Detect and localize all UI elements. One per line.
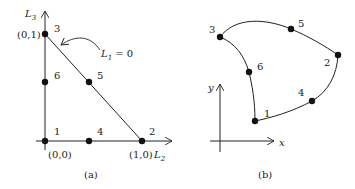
node-b-5-label: 5 (298, 18, 304, 29)
diagram-canvas: 1 2 3 4 5 6 (0,0) (1,0) (0,1) L3 L2 L1 =… (0, 0, 355, 189)
coord-origin: (0,0) (48, 149, 72, 160)
node-2 (139, 138, 145, 144)
annotation-arrow (61, 38, 100, 50)
node-6-label: 6 (54, 70, 60, 81)
node-b-2 (335, 52, 341, 58)
node-4 (86, 138, 92, 144)
axis-l3-label: L3 (24, 8, 37, 22)
coord-1-0: (1,0) (129, 149, 153, 160)
axis-l2-label: L2 (153, 149, 166, 163)
node-b-4 (309, 98, 315, 104)
node-b-4-label: 4 (298, 87, 304, 98)
axis-y-label: y (207, 82, 214, 93)
node-b-3-label: 3 (209, 24, 215, 35)
node-3 (42, 31, 48, 37)
caption-a: (a) (84, 169, 98, 180)
edge-1-6-3 (220, 37, 255, 121)
node-4-label: 4 (97, 126, 103, 137)
node-1-label: 1 (54, 126, 60, 137)
node-b-6-label: 6 (257, 61, 263, 72)
axis-x-label: x (279, 137, 285, 148)
node-b-5 (288, 26, 294, 32)
figure-a: 1 2 3 4 5 6 (0,0) (1,0) (0,1) L3 L2 L1 =… (17, 8, 172, 180)
node-5 (86, 79, 92, 85)
node-b-6 (246, 69, 252, 75)
node-b-3 (217, 34, 223, 40)
node-b-2-label: 2 (324, 57, 330, 68)
node-3-label: 3 (54, 23, 60, 34)
node-b-1 (252, 118, 258, 124)
coord-0-1: (0,1) (17, 29, 41, 40)
node-6 (42, 79, 48, 85)
node-b-1-label: 1 (264, 108, 270, 119)
node-5-label: 5 (97, 70, 103, 81)
figure-b: 1 2 3 4 5 6 y x (b) (207, 18, 341, 180)
caption-b: (b) (258, 169, 272, 180)
node-1 (42, 138, 48, 144)
annotation-l1-zero: L1 = 0 (100, 48, 133, 62)
node-2-label: 2 (149, 126, 155, 137)
